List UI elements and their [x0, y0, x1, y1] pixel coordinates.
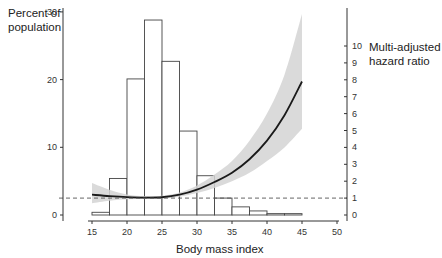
x-tick-label: 20 [122, 227, 132, 237]
left-y-tick-label: 20 [47, 75, 57, 85]
right-y-tick-label: 1 [352, 193, 357, 203]
bmi-hazard-chart: 15202530354045500102030012345678910 Perc… [0, 0, 442, 258]
right-y-tick-label: 2 [352, 176, 357, 186]
right-y-tick-label: 9 [352, 58, 357, 68]
x-tick-label: 40 [262, 227, 272, 237]
right-y-tick-label: 0 [352, 210, 357, 220]
histogram-bar [92, 212, 110, 215]
x-axis-title: Body mass index [176, 242, 264, 256]
left-y-tick-label: 10 [47, 142, 57, 152]
x-tick-label: 25 [157, 227, 167, 237]
right-y-tick-label: 8 [352, 75, 357, 85]
histogram-bar [145, 20, 163, 215]
right-y-tick-label: 4 [352, 142, 357, 152]
histogram-bar [250, 211, 268, 215]
left-axis-title-line2: population [8, 20, 61, 34]
histogram-bar [180, 131, 198, 215]
left-axis-title: Percent of population [8, 6, 61, 34]
right-y-tick-label: 5 [352, 126, 357, 136]
right-y-tick-label: 6 [352, 109, 357, 119]
right-y-tick-label: 3 [352, 159, 357, 169]
right-axis-title-line2: hazard ratio [369, 54, 441, 68]
plot-area: 15202530354045500102030012345678910 [0, 0, 442, 258]
x-tick-label: 30 [192, 227, 202, 237]
histogram-bar [232, 207, 250, 215]
histogram-bar [267, 214, 285, 215]
left-y-tick-label: 0 [52, 210, 57, 220]
x-tick-label: 50 [332, 227, 342, 237]
right-axis-title-line1: Multi-adjusted [369, 40, 441, 54]
right-axis-title: Multi-adjusted hazard ratio [369, 40, 441, 68]
left-axis-title-line1: Percent of [8, 6, 61, 20]
histogram-bar [162, 61, 180, 215]
histogram-bar [285, 214, 303, 215]
right-y-tick-label: 7 [352, 92, 357, 102]
histogram-bar [127, 79, 145, 215]
x-tick-label: 45 [297, 227, 307, 237]
histogram-bar [215, 198, 233, 215]
right-y-tick-label: 10 [352, 41, 362, 51]
x-tick-label: 35 [227, 227, 237, 237]
x-tick-label: 15 [87, 227, 97, 237]
